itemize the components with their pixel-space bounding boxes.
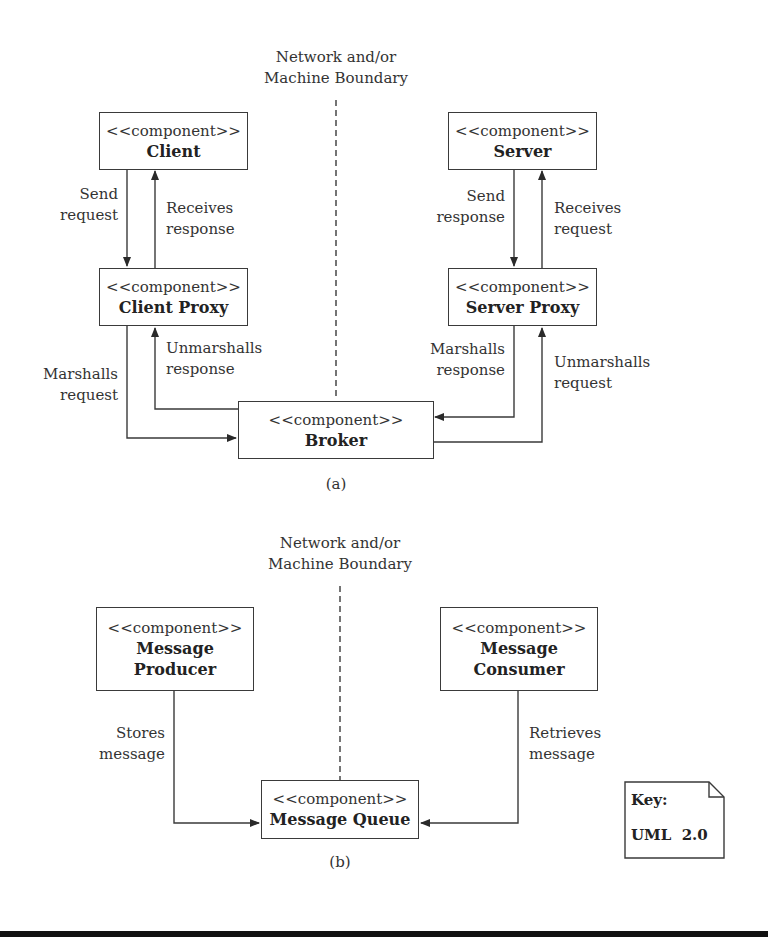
key-value: UML 2.0 <box>631 826 708 844</box>
label-line: request <box>554 219 621 240</box>
boundary-label-line: Network and/or <box>240 533 440 554</box>
label-send-request: Send request <box>40 184 118 226</box>
stereotype: <<component>> <box>452 618 587 638</box>
label-line: message <box>529 744 601 765</box>
boundary-label-line: Machine Boundary <box>240 554 440 575</box>
stereotype: <<component>> <box>106 277 241 297</box>
boundary-label-a: Network and/or Machine Boundary <box>236 47 436 89</box>
component-name: Server Proxy <box>466 297 580 318</box>
label-line: Send <box>40 184 118 205</box>
label-stores-message: Stores message <box>80 723 165 765</box>
key-title: Key: <box>631 791 668 809</box>
component-name-line: Consumer <box>473 659 564 680</box>
arrow-stores-message <box>174 690 259 823</box>
component-name-line: Message <box>480 638 558 659</box>
arrow-retrieves-message <box>421 690 518 823</box>
label-line: request <box>554 373 650 394</box>
label-line: message <box>80 744 165 765</box>
label-line: Marshalls <box>18 364 118 385</box>
label-line: request <box>40 205 118 226</box>
label-line: response <box>166 359 262 380</box>
stereotype: <<component>> <box>106 121 241 141</box>
label-line: Retrieves <box>529 723 601 744</box>
label-send-response: Send response <box>405 186 505 228</box>
label-line: Receives <box>554 198 621 219</box>
boundary-label-b: Network and/or Machine Boundary <box>240 533 440 575</box>
component-server-proxy[interactable]: <<component>> Server Proxy <box>448 268 597 326</box>
label-receives-response: Receives response <box>166 198 235 240</box>
component-name: Server <box>493 141 551 162</box>
stereotype: <<component>> <box>108 618 243 638</box>
boundary-label-line: Network and/or <box>236 47 436 68</box>
stereotype: <<component>> <box>455 277 590 297</box>
label-retrieves-message: Retrieves message <box>529 723 601 765</box>
label-marshalls-response: Marshalls response <box>405 339 505 381</box>
label-receives-request: Receives request <box>554 198 621 240</box>
caption-a: (a) <box>316 474 356 495</box>
label-unmarshalls-response: Unmarshalls response <box>166 338 262 380</box>
component-client-proxy[interactable]: <<component>> Client Proxy <box>99 268 248 326</box>
component-client[interactable]: <<component>> Client <box>99 112 248 170</box>
component-message-producer[interactable]: <<component>> Message Producer <box>96 607 254 691</box>
label-line: request <box>18 385 118 406</box>
component-name-line: Producer <box>134 659 216 680</box>
label-line: response <box>166 219 235 240</box>
label-line: Marshalls <box>405 339 505 360</box>
component-name: Client <box>146 141 200 162</box>
component-server[interactable]: <<component>> Server <box>448 112 597 170</box>
label-line: Send <box>405 186 505 207</box>
component-name: Broker <box>305 430 367 451</box>
label-line: response <box>405 360 505 381</box>
label-unmarshalls-request: Unmarshalls request <box>554 352 650 394</box>
label-line: Unmarshalls <box>554 352 650 373</box>
label-line: Stores <box>80 723 165 744</box>
stereotype: <<component>> <box>273 789 408 809</box>
caption-b: (b) <box>320 852 360 873</box>
stereotype: <<component>> <box>455 121 590 141</box>
label-marshalls-request: Marshalls request <box>18 364 118 406</box>
label-line: Receives <box>166 198 235 219</box>
component-name: Message Queue <box>270 809 411 830</box>
component-message-consumer[interactable]: <<component>> Message Consumer <box>440 607 598 691</box>
stereotype: <<component>> <box>269 410 404 430</box>
component-name-line: Message <box>136 638 214 659</box>
label-line: Unmarshalls <box>166 338 262 359</box>
label-line: response <box>405 207 505 228</box>
boundary-label-line: Machine Boundary <box>236 68 436 89</box>
bottom-rule <box>0 931 768 937</box>
component-name: Client Proxy <box>119 297 229 318</box>
component-broker[interactable]: <<component>> Broker <box>238 401 434 459</box>
component-message-queue[interactable]: <<component>> Message Queue <box>261 780 419 839</box>
